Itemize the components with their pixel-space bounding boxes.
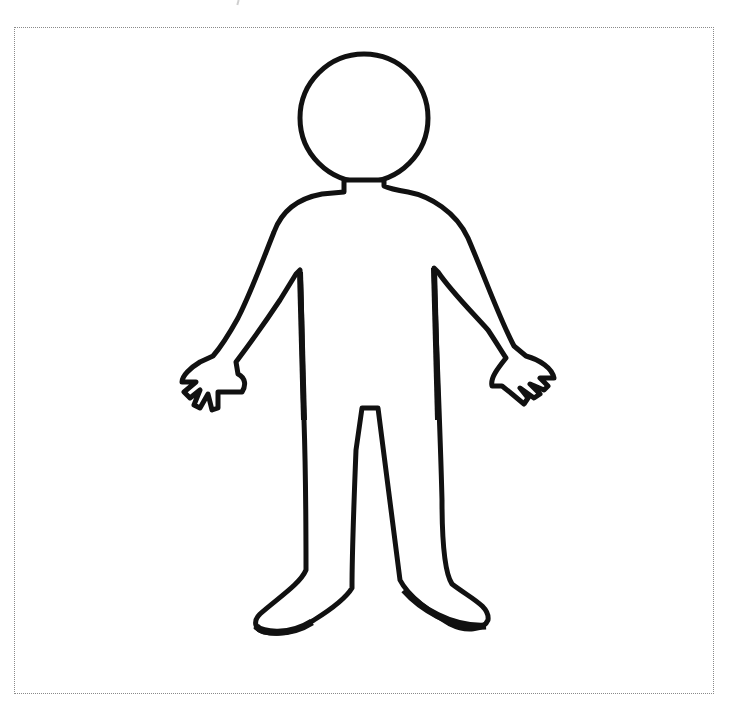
body-outline [0, 0, 740, 724]
left-armpit-line [300, 272, 304, 420]
head-outline [300, 54, 428, 182]
body-outline-path [182, 180, 554, 633]
right-armpit-line [434, 268, 438, 420]
